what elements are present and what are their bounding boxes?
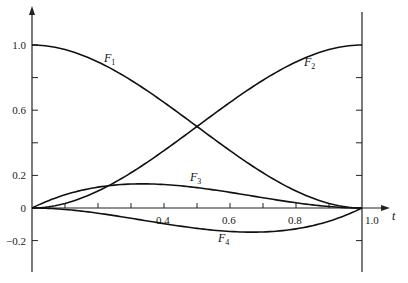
y-tick-label: 0.6 [12, 104, 26, 116]
x-axis-label: t [392, 209, 396, 223]
y-axis-arrow-icon [29, 6, 35, 15]
curve-f4 [32, 208, 362, 232]
label-f2: F2 [303, 55, 315, 71]
y-tick-label: 1.0 [12, 39, 26, 51]
label-f4: F4 [217, 231, 229, 247]
axes [29, 6, 390, 272]
x-tick-label: 0.8 [288, 214, 302, 226]
y-tick-label: −0.2 [6, 235, 26, 247]
label-f3: F3 [189, 170, 201, 186]
y-tick-label: 0 [21, 202, 27, 214]
x-axis-arrow-icon [381, 205, 390, 211]
hermite-basis-chart: 0.40.60.81.01.00.60.20−0.2 F1F2F3F4 t [0, 0, 408, 283]
tick-labels: 0.40.60.81.01.00.60.20−0.2 [6, 39, 379, 247]
y-tick-label: 0.2 [12, 169, 26, 181]
label-f1: F1 [103, 51, 115, 67]
x-tick-label: 1.0 [365, 214, 379, 226]
curve-labels: F1F2F3F4 [103, 51, 315, 247]
x-tick-label: 0.6 [222, 214, 236, 226]
